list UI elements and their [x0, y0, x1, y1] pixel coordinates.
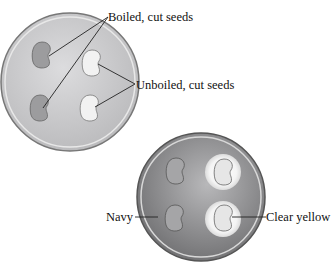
bottom-petri-dish	[137, 133, 265, 261]
clear-yellow-seed-2	[214, 205, 232, 231]
navy-seed-2	[165, 205, 183, 231]
label-clear-yellow: Clear yellow	[266, 210, 330, 224]
top-petri-dish	[1, 13, 139, 151]
label-navy: Navy	[106, 210, 134, 224]
seed-diagram: Boiled, cut seeds Unboiled, cut seeds Na…	[0, 0, 333, 265]
label-boiled-cut-seeds: Boiled, cut seeds	[108, 10, 193, 24]
label-unboiled-cut-seeds: Unboiled, cut seeds	[136, 78, 234, 92]
clear-yellow-seed-1	[214, 159, 232, 185]
navy-seed-1	[166, 158, 184, 184]
unboiled-seed-2	[80, 95, 98, 121]
boiled-seed-2	[30, 95, 48, 121]
boiled-seed-1	[32, 42, 50, 68]
unboiled-seed-1	[82, 50, 100, 76]
